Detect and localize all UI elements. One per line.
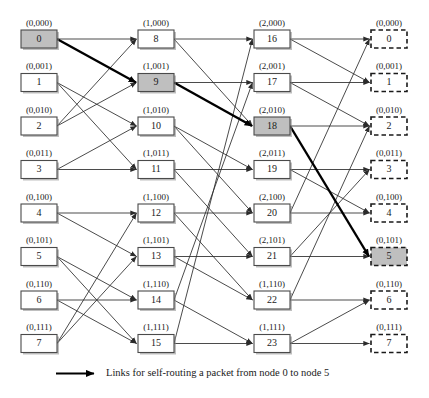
network-node-8[interactable]: (1,000)8 <box>138 18 176 51</box>
network-node-22[interactable]: (1,110)22 <box>254 279 292 312</box>
network-link <box>174 39 253 344</box>
node-number: 0 <box>37 33 42 44</box>
network-node-20[interactable]: (2,100)20 <box>254 192 292 225</box>
node-number: 12 <box>151 207 161 218</box>
network-node-0[interactable]: (0,000)0 <box>21 18 59 51</box>
network-node-7[interactable]: (0,111)7 <box>371 322 407 353</box>
node-address-label: (0,111) <box>26 322 52 332</box>
node-number: 8 <box>154 33 159 44</box>
node-number: 1 <box>37 76 42 87</box>
node-address-label: (1,101) <box>143 235 169 245</box>
network-node-7[interactable]: (0,111)7 <box>21 322 59 355</box>
node-number: 14 <box>151 294 161 305</box>
node-number: 4 <box>37 207 42 218</box>
node-number: 10 <box>151 120 161 131</box>
nodes-layer: (0,000)0(0,001)1(0,010)2(0,011)3(0,100)4… <box>21 18 407 355</box>
network-node-16[interactable]: (2,000)16 <box>254 18 292 51</box>
network-node-21[interactable]: (2,101)21 <box>254 235 292 268</box>
node-address-label: (0,011) <box>26 148 52 158</box>
network-node-10[interactable]: (1,010)10 <box>138 105 176 138</box>
network-node-9[interactable]: (1,001)9 <box>138 61 176 94</box>
network-node-0[interactable]: (0,000)0 <box>371 18 407 49</box>
node-number: 9 <box>154 76 159 87</box>
network-link <box>57 126 137 170</box>
node-address-label: (2,000) <box>259 18 285 28</box>
node-number: 18 <box>267 120 277 131</box>
node-address-label: (0,010) <box>376 105 402 115</box>
omega-network-figure: (0,000)0(0,001)1(0,010)2(0,011)3(0,100)4… <box>0 0 429 398</box>
network-link <box>174 257 253 301</box>
node-address-label: (1,110) <box>143 279 169 289</box>
node-address-label: (0,010) <box>26 105 52 115</box>
network-node-2[interactable]: (0,010)2 <box>371 105 407 136</box>
node-address-label: (1,100) <box>143 192 169 202</box>
node-number: 21 <box>267 250 277 261</box>
network-node-3[interactable]: (0,011)3 <box>21 148 59 181</box>
network-link <box>290 300 370 344</box>
node-address-label: (1,110) <box>259 279 285 289</box>
node-address-label: (0,110) <box>376 279 402 289</box>
node-number: 17 <box>267 76 277 87</box>
network-link <box>174 300 253 344</box>
node-number: 0 <box>387 33 392 44</box>
highlighted-route-link <box>290 126 369 257</box>
node-number: 1 <box>387 76 392 87</box>
node-address-label: (0,101) <box>376 235 402 245</box>
node-number: 20 <box>267 207 277 218</box>
network-node-13[interactable]: (1,101)13 <box>138 235 176 268</box>
node-address-label: (1,001) <box>143 61 169 71</box>
network-node-1[interactable]: (0,001)1 <box>21 61 59 94</box>
network-node-17[interactable]: (2,001)17 <box>254 61 292 94</box>
network-node-15[interactable]: (1,111)15 <box>138 322 176 355</box>
network-link <box>57 300 137 344</box>
node-address-label: (0,001) <box>26 61 52 71</box>
node-number: 19 <box>267 163 277 174</box>
network-link <box>290 83 370 127</box>
node-address-label: (2,001) <box>259 61 285 71</box>
node-address-label: (1,010) <box>143 105 169 115</box>
node-number: 16 <box>267 33 277 44</box>
node-address-label: (0,011) <box>376 148 402 158</box>
network-node-12[interactable]: (1,100)12 <box>138 192 176 225</box>
network-node-1[interactable]: (0,001)1 <box>371 61 407 92</box>
node-number: 6 <box>37 294 42 305</box>
node-number: 6 <box>387 294 392 305</box>
network-node-6[interactable]: (0,110)6 <box>21 279 59 312</box>
network-link <box>57 39 137 126</box>
node-address-label: (0,001) <box>376 61 402 71</box>
network-node-19[interactable]: (2,011)19 <box>254 148 292 181</box>
node-address-label: (0,000) <box>26 18 52 28</box>
network-node-3[interactable]: (0,011)3 <box>371 148 407 179</box>
node-number: 2 <box>387 120 392 131</box>
network-node-2[interactable]: (0,010)2 <box>21 105 59 138</box>
node-address-label: (0,100) <box>376 192 402 202</box>
node-address-label: (1,111) <box>143 322 169 332</box>
network-node-4[interactable]: (0,100)4 <box>371 192 407 223</box>
network-link <box>57 213 137 257</box>
node-address-label: (1,011) <box>143 148 169 158</box>
network-node-6[interactable]: (0,110)6 <box>371 279 407 310</box>
network-node-5[interactable]: (0,101)5 <box>371 235 407 266</box>
node-address-label: (0,101) <box>26 235 52 245</box>
node-address-label: (1,000) <box>143 18 169 28</box>
node-address-label: (2,011) <box>259 148 285 158</box>
node-number: 15 <box>151 337 161 348</box>
node-number: 13 <box>151 250 161 261</box>
node-number: 2 <box>37 120 42 131</box>
node-number: 7 <box>37 337 42 348</box>
network-link <box>290 39 370 83</box>
node-number: 3 <box>37 163 42 174</box>
node-address-label: (2,101) <box>259 235 285 245</box>
highlighted-route-link <box>57 39 136 83</box>
links-layer <box>57 39 370 344</box>
network-node-4[interactable]: (0,100)4 <box>21 192 59 225</box>
node-number: 5 <box>387 250 392 261</box>
network-node-14[interactable]: (1,110)14 <box>138 279 176 312</box>
network-node-5[interactable]: (0,101)5 <box>21 235 59 268</box>
network-node-11[interactable]: (1,011)11 <box>138 148 176 181</box>
network-link <box>174 126 253 170</box>
network-node-18[interactable]: (2,010)18 <box>254 105 292 138</box>
node-address-label: (0,111) <box>376 322 402 332</box>
network-link <box>57 83 137 170</box>
network-node-23[interactable]: (1,111)23 <box>254 322 292 355</box>
